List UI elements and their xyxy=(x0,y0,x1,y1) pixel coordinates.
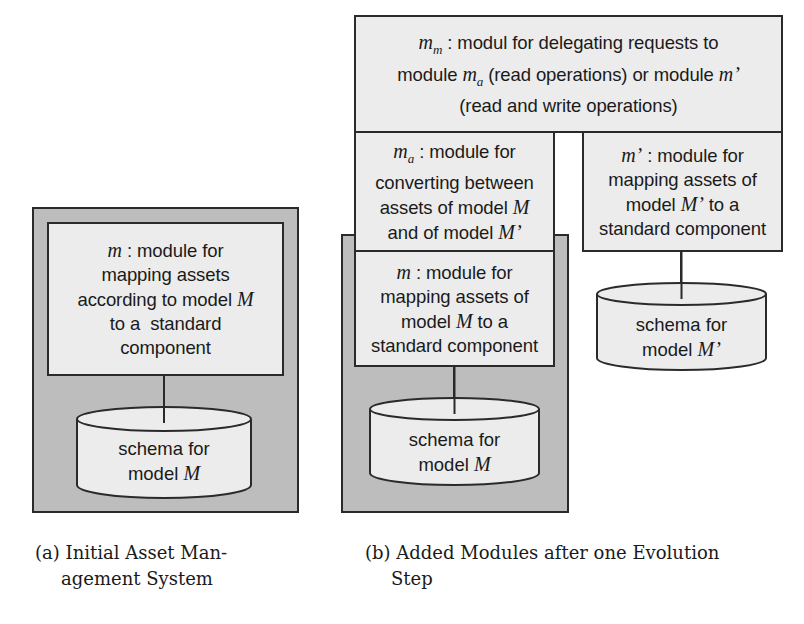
text-line: component xyxy=(120,336,211,360)
symbol-mprime: m’ xyxy=(621,144,642,166)
text-line: modul for delegating requests to xyxy=(457,32,718,53)
text-line: module xyxy=(397,64,457,85)
caption-text: agement System xyxy=(35,566,315,592)
subscript: a xyxy=(408,151,414,166)
symbol-Mprime: M’ xyxy=(681,193,704,215)
text-line: standard component xyxy=(371,334,538,358)
module-ma-converter: ma : module for converting between asset… xyxy=(354,131,555,252)
text-line: assets of model xyxy=(380,197,508,218)
text-line: standard component xyxy=(599,217,766,241)
caption-a: (a) Initial Asset Man- agement System xyxy=(35,540,315,592)
text-line: module for xyxy=(657,145,743,166)
symbol-Mprime: M’ xyxy=(698,338,721,360)
symbol-mprime: m’ xyxy=(719,63,740,85)
text-line: to a xyxy=(478,311,508,332)
caption-text: Step xyxy=(365,566,795,592)
text-line: to a xyxy=(709,194,739,215)
text-line: model xyxy=(626,194,676,215)
schema-label: schema for xyxy=(595,313,768,337)
text-line: module for xyxy=(137,240,223,261)
schema-cylinder-b-mprime: schema for model M’ xyxy=(595,280,768,374)
text-line: module for xyxy=(429,141,515,162)
schema-cylinder-a: schema for model M xyxy=(75,405,253,501)
symbol-m: m xyxy=(108,239,122,261)
text-line: module for xyxy=(426,262,512,283)
symbol-m: m xyxy=(397,261,411,283)
schema-cylinder-b-m: schema for model M xyxy=(368,395,541,489)
subscript: a xyxy=(477,74,483,89)
symbol-mm: m xyxy=(419,31,433,53)
subscript: m xyxy=(433,42,442,57)
module-mm-delegator: mm : modul for delegating requests to mo… xyxy=(354,15,783,133)
symbol-M: M xyxy=(513,196,530,218)
text-line: and of model xyxy=(388,222,494,243)
text-line: mapping assets of xyxy=(380,285,528,309)
symbol-Mprime: M’ xyxy=(498,221,521,243)
module-mprime: m’ : module for mapping assets of model … xyxy=(582,131,783,252)
text-line: converting between xyxy=(375,171,534,195)
text-line: (read and write operations) xyxy=(459,94,677,118)
text-line: (read operations) or module xyxy=(488,64,714,85)
schema-label: model xyxy=(642,339,692,360)
schema-label: schema for xyxy=(75,437,253,461)
text-line: mapping assets of xyxy=(608,168,756,192)
symbol-M: M xyxy=(474,453,491,475)
symbol-ma: m xyxy=(393,140,407,162)
caption-tag: (b) xyxy=(365,540,391,566)
symbol-ma: m xyxy=(462,63,476,85)
caption-text: Added Modules after one Evolution xyxy=(396,542,719,563)
caption-tag: (a) xyxy=(35,540,60,566)
module-m-evolved: m : module for mapping assets of model M… xyxy=(354,250,555,367)
symbol-M: M xyxy=(237,288,254,310)
schema-label: schema for xyxy=(368,428,541,452)
text-line: mapping assets xyxy=(101,263,229,287)
symbol-M: M xyxy=(456,310,473,332)
text-line: model xyxy=(401,311,451,332)
text-line: to a standard xyxy=(110,312,222,336)
text-line: according to model xyxy=(77,289,232,310)
module-m-initial: m : module for mapping assets according … xyxy=(47,222,284,376)
symbol-M: M xyxy=(183,462,200,484)
schema-label: model xyxy=(128,463,178,484)
caption-text: Initial Asset Man- xyxy=(66,542,228,563)
caption-b: (b) Added Modules after one Evolution St… xyxy=(365,540,795,592)
schema-label: model xyxy=(418,454,468,475)
